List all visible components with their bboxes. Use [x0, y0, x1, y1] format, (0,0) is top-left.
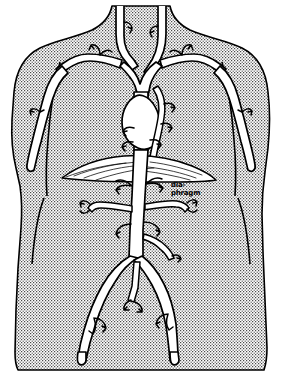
venous-system-illustration: dia- phragm [0, 0, 282, 378]
anatomical-figure: dia- phragm [0, 0, 282, 378]
left-femoral-vein-terminus [170, 352, 179, 365]
diaphragm-label-line1: dia- [171, 181, 186, 189]
diaphragm-label-line2: phragm [171, 189, 200, 197]
right-femoral-vein-terminus [77, 352, 86, 365]
